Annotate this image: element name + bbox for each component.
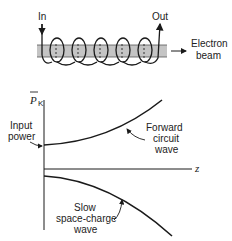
- in-label: In: [38, 11, 46, 22]
- slow-label-1: Slow: [74, 202, 96, 213]
- forward-label-2: circuit: [153, 133, 179, 144]
- input-power-label-2: power: [8, 131, 36, 142]
- svg-text:P: P: [29, 94, 37, 106]
- x-axis-label: z: [194, 162, 200, 174]
- forward-wave-pointer: [127, 129, 145, 140]
- electron-beam-label-2: beam: [196, 50, 221, 61]
- forward-circuit-wave-curve: [44, 100, 162, 145]
- electron-beam-band: [37, 45, 167, 57]
- input-power-label-1: Input: [10, 120, 32, 131]
- helix-coil: [42, 24, 160, 65]
- slow-label-3: wave: [73, 224, 98, 235]
- slow-label-2: space-charge: [56, 213, 117, 224]
- svg-text:K: K: [38, 99, 44, 108]
- electron-beam-label-1: Electron: [191, 38, 228, 49]
- input-power-pointer: [30, 142, 42, 146]
- y-axis-label: P K: [29, 92, 44, 108]
- forward-label-1: Forward: [146, 122, 183, 133]
- twt-diagram: In Out Electron beam P K z Input power F…: [0, 0, 232, 241]
- forward-label-3: wave: [154, 144, 179, 155]
- out-label: Out: [152, 11, 168, 22]
- plot-axes: [44, 100, 192, 230]
- slow-space-charge-wave-curve: [44, 176, 172, 236]
